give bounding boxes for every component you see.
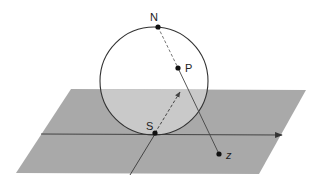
label-z: z [225, 149, 232, 161]
projection-line-dashed [158, 27, 178, 68]
stereographic-projection-diagram: N P S z [0, 0, 322, 184]
label-S: S [146, 120, 153, 132]
diagram-canvas: N P S z [0, 0, 322, 184]
label-P: P [185, 62, 192, 74]
label-N: N [150, 11, 158, 23]
point-P [175, 65, 180, 70]
point-z [216, 151, 221, 156]
point-N [155, 24, 160, 29]
